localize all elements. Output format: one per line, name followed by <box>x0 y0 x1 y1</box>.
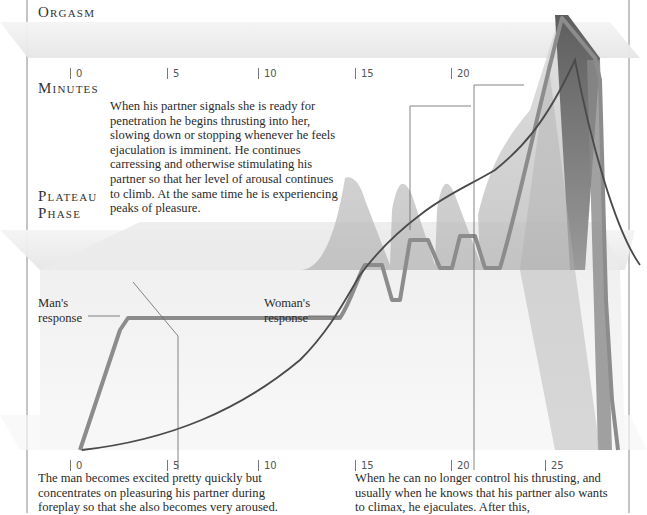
excitement-annotation: The man becomes excited pretty quickly b… <box>38 471 283 515</box>
top-tick-5: 5 <box>167 63 179 82</box>
man-response-label: Man's response <box>38 296 82 325</box>
plateau-annotation: When his partner signals she is ready fo… <box>110 99 346 216</box>
top-tick-15: 15 <box>355 63 374 82</box>
plateau-phase-label: Plateau Phase <box>38 188 98 222</box>
climax-annotation: When he can no longer control his thrust… <box>355 471 617 515</box>
orgasm-level-label: Orgasm <box>38 4 95 21</box>
orgasm-plane <box>0 22 640 58</box>
top-tick-20: 20 <box>451 63 470 82</box>
woman-response-label: Woman's response <box>264 296 310 325</box>
minutes-axis-label: Minutes <box>38 80 99 97</box>
top-tick-10: 10 <box>258 63 277 82</box>
